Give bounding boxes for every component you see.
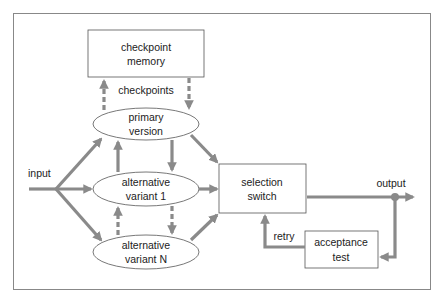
retry-label: retry — [274, 230, 296, 242]
input-to-primary-arrow — [56, 139, 101, 189]
acceptance-test-line2: test — [333, 251, 350, 263]
alternative-variant-1-node: alternative variant 1 — [93, 172, 199, 206]
alt-variant-1-line2: variant 1 — [126, 190, 166, 202]
alt-variant-1-line1: alternative — [122, 176, 171, 188]
primary-to-switch-arrow — [191, 135, 217, 162]
alternative-variant-n-node: alternative variant N — [93, 235, 199, 269]
primary-version-line2: version — [129, 125, 163, 137]
alt-variant-n-line2: variant N — [125, 253, 167, 265]
checkpoint-memory-line1: checkpoint — [121, 41, 171, 53]
input-label: input — [28, 167, 51, 179]
svg-text:variant N: variant N — [125, 253, 167, 265]
vn-to-switch-arrow — [191, 215, 217, 240]
svg-text:primary: primary — [128, 111, 164, 123]
svg-text:alternative: alternative — [122, 176, 171, 188]
svg-text:switch: switch — [247, 190, 276, 202]
svg-text:selection: selection — [241, 176, 283, 188]
acceptance-test-line1: acceptance — [314, 236, 368, 248]
svg-text:alternative: alternative — [122, 239, 171, 251]
selection-switch-line1: selection — [241, 176, 283, 188]
checkpoints-label: checkpoints — [118, 84, 173, 96]
svg-text:variant 1: variant 1 — [126, 190, 166, 202]
svg-text:version: version — [129, 125, 163, 137]
checkpoint-memory-node: checkpoint memory — [88, 30, 204, 77]
alt-variant-n-line1: alternative — [122, 239, 171, 251]
svg-text:test: test — [333, 251, 350, 263]
primary-version-line1: primary — [128, 111, 164, 123]
svg-text:acceptance: acceptance — [314, 236, 368, 248]
checkpoint-memory-line2: memory — [127, 55, 166, 67]
svg-text:checkpoint: checkpoint — [121, 41, 171, 53]
svg-text:memory: memory — [127, 55, 166, 67]
input-to-vn-arrow — [56, 189, 101, 240]
output-label: output — [376, 177, 405, 189]
selection-switch-node: selection switch — [219, 164, 306, 213]
diagram-canvas: checkpoint memory checkpoints primary ve… — [0, 0, 443, 302]
output-to-acceptance-arrow — [381, 197, 395, 257]
acceptance-test-node: acceptance test — [305, 231, 378, 268]
selection-switch-line2: switch — [247, 190, 276, 202]
primary-version-node: primary version — [93, 108, 199, 140]
